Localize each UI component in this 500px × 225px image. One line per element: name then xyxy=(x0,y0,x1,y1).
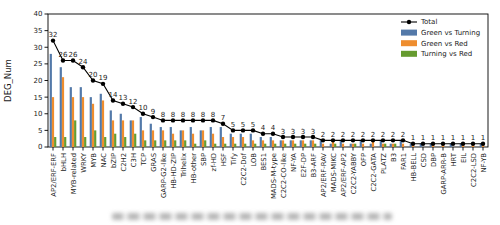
x-tick-label: GARP-ARR-B xyxy=(440,153,448,195)
x-tick-label: PLATZ xyxy=(380,153,388,174)
x-tick-label: BES1 xyxy=(260,153,268,171)
x-tick-label: C2C2-Dof xyxy=(240,152,248,185)
total-value-label: 2 xyxy=(391,131,395,139)
x-tick-label: GRAS xyxy=(150,153,158,172)
x-tick-label: TCP xyxy=(140,153,148,167)
x-tick-label: GARP-G2-like xyxy=(160,153,168,198)
y-tick-label: 30 xyxy=(34,44,43,52)
bar xyxy=(102,100,104,147)
x-tick-label: HB-other xyxy=(190,153,198,184)
legend-label: Green vs Turning xyxy=(421,29,480,37)
bar xyxy=(140,117,142,147)
bar xyxy=(294,144,296,147)
total-value-label: 19 xyxy=(99,74,108,82)
total-value-label: 8 xyxy=(161,111,165,119)
x-tick-label: SBP xyxy=(200,153,208,166)
bar xyxy=(394,144,396,147)
bar xyxy=(330,144,332,147)
bar xyxy=(160,127,162,147)
bar xyxy=(64,137,66,147)
bar xyxy=(184,140,186,147)
total-value-label: 32 xyxy=(49,31,58,39)
total-value-label: 1 xyxy=(461,134,465,142)
bar xyxy=(292,140,294,147)
total-value-label: 4 xyxy=(261,124,266,132)
legend-label-total: Total xyxy=(420,18,437,26)
bar xyxy=(310,140,312,147)
legend-label: Green vs Red xyxy=(421,40,468,48)
total-value-label: 26 xyxy=(59,51,68,59)
bar xyxy=(132,120,134,147)
legend-swatch xyxy=(401,51,417,57)
bar xyxy=(162,130,164,147)
bar xyxy=(264,144,266,147)
total-value-label: 8 xyxy=(201,111,205,119)
x-tick-label: MADS-M-type xyxy=(270,153,278,199)
total-value-label: 2 xyxy=(321,131,325,139)
legend-label: Turning vs Red xyxy=(420,50,472,58)
bar xyxy=(314,144,316,147)
bar xyxy=(290,140,292,147)
total-value-label: 1 xyxy=(421,134,425,142)
total-value-label: 5 xyxy=(241,121,245,129)
bar xyxy=(222,137,224,147)
bar xyxy=(342,144,344,147)
x-tick-label: EIL xyxy=(460,153,468,163)
total-value-label: 24 xyxy=(79,58,88,66)
bar xyxy=(100,94,102,147)
bar xyxy=(402,144,404,147)
bar xyxy=(90,97,92,147)
bar xyxy=(260,137,262,147)
y-tick-label: 25 xyxy=(34,60,43,68)
bar xyxy=(94,130,96,147)
x-tick-label: Tify xyxy=(230,153,238,166)
bar xyxy=(192,134,194,147)
total-value-label: 2 xyxy=(371,131,375,139)
total-value-label: 5 xyxy=(251,121,255,129)
x-tick-label: C2C2-CO-like xyxy=(280,153,288,198)
x-tick-label: bZIP xyxy=(110,153,118,168)
y-tick-label: 0 xyxy=(38,143,42,151)
x-tick-label: MADS-MIKC xyxy=(330,153,338,192)
x-tick-label: C2H2 xyxy=(120,153,128,172)
x-tick-label: MYB-related xyxy=(70,153,78,194)
total-value-label: 9 xyxy=(151,108,155,116)
bar xyxy=(234,144,236,147)
x-tick-label: NF-YA xyxy=(290,153,298,172)
bar xyxy=(124,137,126,147)
total-value-label: 2 xyxy=(381,131,385,139)
total-value-label: 20 xyxy=(89,71,98,79)
total-value-label: 3 xyxy=(311,128,315,136)
total-value-label: 5 xyxy=(231,121,235,129)
total-value-label: 3 xyxy=(291,128,295,136)
bar xyxy=(120,114,122,147)
bar xyxy=(240,134,242,147)
x-tick-label: CSD xyxy=(420,153,428,167)
x-tick-label: C2C2-YABBY xyxy=(350,152,358,194)
bar xyxy=(272,140,274,147)
bar xyxy=(362,144,364,147)
x-tick-label: C3H xyxy=(130,153,138,167)
bar xyxy=(334,144,336,147)
x-tick-label: NF-YB xyxy=(480,153,488,173)
bar xyxy=(284,144,286,147)
total-value-label: 2 xyxy=(351,131,355,139)
bar xyxy=(322,144,324,147)
x-tick-label: B3-ARF xyxy=(310,153,318,178)
bar xyxy=(384,144,386,147)
x-tick-label: zf-HD xyxy=(210,153,218,171)
total-value-label: 2 xyxy=(331,131,335,139)
total-value-label: 4 xyxy=(271,124,276,132)
x-tick-label: bHLH xyxy=(60,153,68,171)
total-value-label: 7 xyxy=(221,114,225,122)
x-tick-label: AP2/ERF-RAV xyxy=(320,153,328,197)
total-value-label: 1 xyxy=(451,134,455,142)
bar xyxy=(382,144,384,147)
bar xyxy=(110,110,112,147)
deg-chart: 0510152025303540DEG_NumAP2/ERF-ERFbHLHMY… xyxy=(0,0,500,225)
bar xyxy=(282,140,284,147)
bar xyxy=(50,54,52,147)
bar xyxy=(80,87,82,147)
bar xyxy=(370,144,372,147)
total-value-label: 3 xyxy=(301,128,305,136)
